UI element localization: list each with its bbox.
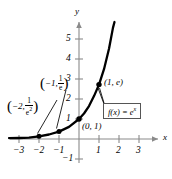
function-callout-box: f(x) = ex: [103, 103, 141, 119]
point-label-minus1: (−1,1e): [40, 74, 69, 92]
y-axis: [75, 22, 83, 163]
denominator-exponent: 2: [29, 106, 32, 112]
y-axis-label: y: [75, 7, 79, 16]
function-exponent: x: [134, 106, 137, 112]
point-x-minus1: −1,: [45, 78, 58, 88]
y-tick-label-1: 1: [66, 114, 71, 124]
fraction-denominator: e2: [25, 106, 33, 116]
y-tick-label-4: 4: [66, 54, 71, 64]
leader-minus1: [57, 90, 67, 129]
y-tick-label-2: 2: [66, 94, 71, 104]
x-tick-label-minus2: −2: [33, 146, 44, 156]
x-tick-label-2: 2: [116, 146, 121, 156]
point-dot-minus1: [57, 129, 62, 134]
leader-callout-2: [98, 88, 104, 104]
y-tick-label-5: 5: [66, 34, 71, 44]
x-tick-label-minus3: −3: [13, 146, 24, 156]
fraction-one-over-e-squared: 1e2: [25, 97, 33, 116]
point-dot-origin: [76, 116, 81, 121]
point-label-origin: (0, 1): [82, 122, 102, 131]
paren-close: ): [33, 98, 38, 114]
x-axis-arrow: [152, 136, 158, 142]
y-tick-label-minus1: −1: [62, 154, 73, 164]
point-dot-minus2: [37, 134, 42, 139]
point-x-minus2: −2,: [12, 101, 25, 111]
point-label-minus2: (−2,1e2): [7, 97, 38, 116]
x-tick-label-3: 3: [136, 146, 141, 156]
exponential-function-graph: y x −3 −2 −1 1 2 3 1 2 3 4 5 −1 (0, 1) (…: [0, 0, 172, 179]
x-tick-label-1: 1: [96, 146, 101, 156]
function-expression: f(x) = e: [108, 107, 134, 117]
x-axis-label: x: [163, 133, 167, 142]
leader-minus2: [38, 100, 58, 134]
point-label-one-e: (1, e): [104, 78, 123, 87]
fraction-numerator: 1: [25, 97, 33, 106]
point-dot-one-e: [96, 82, 101, 87]
leader-callout-1: [100, 88, 105, 103]
paren-close: ): [64, 75, 69, 91]
y-axis-arrow: [76, 22, 82, 28]
graph-canvas: [0, 0, 172, 179]
